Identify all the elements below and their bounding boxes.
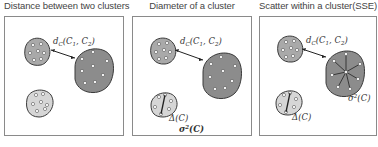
cluster-c3	[27, 90, 54, 117]
distance-label: dC(C1, C2)	[306, 35, 348, 46]
diameter-label: Δ(C)	[291, 112, 311, 122]
distance-arrow	[175, 50, 203, 60]
diameter-diagram: dC(C1, C2) Δ(C) σ2(C)	[133, 17, 253, 137]
distance-diagram: dC(C1, C2)	[5, 17, 125, 137]
diameter-label: Δ(C)	[168, 113, 188, 123]
distance-label: dC(C1, C2)	[53, 36, 95, 47]
panel-title-scatter: Scatter within a cluster(SSE)	[259, 0, 377, 11]
panel-scatter-within-cluster: dC(C1, C2) Δ(C) σ2(C)	[259, 16, 377, 136]
panel-distance-between-clusters: dC(C1, C2)	[4, 16, 124, 136]
panel-title-distance: Distance between two clusters	[4, 0, 124, 11]
variance-label: σ2(C)	[348, 93, 370, 103]
scatter-diagram: dC(C1, C2) Δ(C) σ2(C)	[260, 17, 378, 137]
panel-diameter-of-cluster: dC(C1, C2) Δ(C) σ2(C)	[132, 16, 252, 136]
variance-label: σ2(C)	[179, 124, 204, 134]
distance-label: dC(C1, C2)	[180, 36, 222, 47]
panel-title-diameter: Diameter of a cluster	[132, 0, 252, 11]
